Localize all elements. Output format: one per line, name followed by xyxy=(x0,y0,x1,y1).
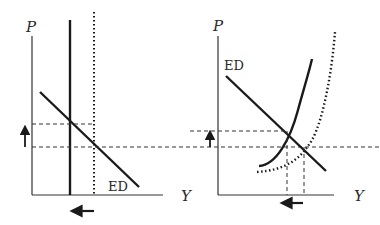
diagram-canvas: P Y ED P Y ED xyxy=(0,0,380,225)
left-ed-curve xyxy=(40,92,139,187)
right-ed-label: ED xyxy=(224,58,244,73)
left-panel: P Y ED xyxy=(25,12,380,211)
left-ed-label: ED xyxy=(108,179,128,194)
right-panel: P Y ED xyxy=(190,17,366,205)
right-x-axis-label: Y xyxy=(354,187,366,205)
left-y-axis-label: P xyxy=(25,18,37,36)
right-y-axis-label: P xyxy=(212,17,224,35)
right-supply-dotted xyxy=(257,32,335,172)
left-x-axis-label: Y xyxy=(181,187,193,205)
